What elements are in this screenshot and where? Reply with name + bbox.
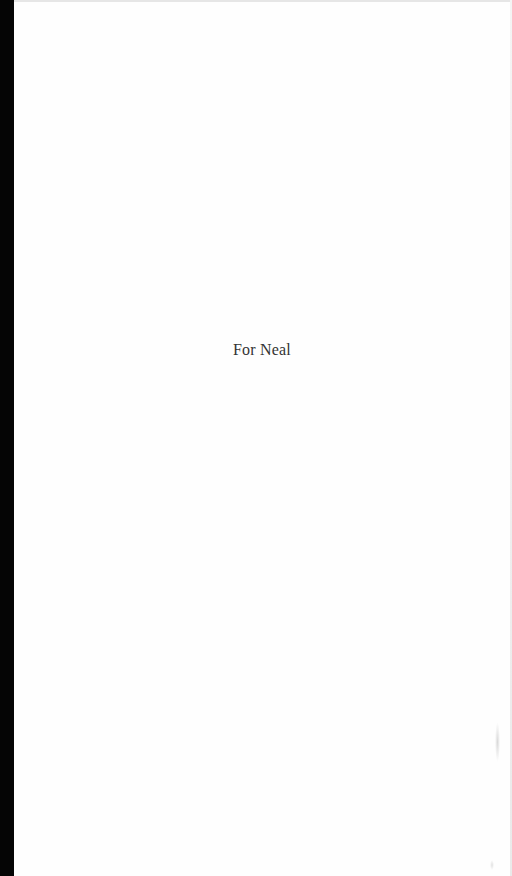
scan-border-notch xyxy=(7,0,14,30)
book-page: For Neal xyxy=(14,2,510,876)
scan-border-left xyxy=(0,0,14,876)
scan-smudge xyxy=(495,722,500,762)
dedication-text: For Neal xyxy=(14,341,510,359)
scan-smudge xyxy=(490,860,494,870)
